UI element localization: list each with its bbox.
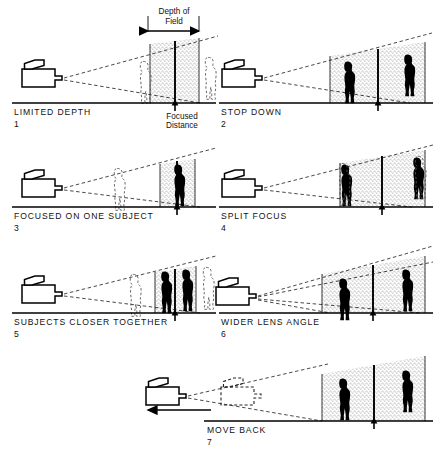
depth-of-field-label-line2: Field (165, 17, 183, 26)
panel-3-caption: FOCUSED ON ONE SUBJECT (14, 211, 154, 221)
panel-2-number: 2 (221, 119, 226, 129)
panel-4-caption: SPLIT FOCUS (221, 211, 287, 221)
depth-of-field-diagram: Depth of Field LIMITED DEPTH 1 Focused D… (0, 0, 435, 459)
panel-5-number: 5 (14, 329, 19, 339)
panel-5-caption: SUBJECTS CLOSER TOGETHER (14, 317, 168, 327)
panel-7-caption: MOVE BACK (207, 425, 266, 435)
focused-distance-label-line1: Focused (166, 112, 198, 121)
panel-4-number: 4 (221, 223, 226, 233)
panel-2-caption: STOP DOWN (221, 107, 282, 117)
panel-6-number: 6 (221, 329, 226, 339)
panel-6-caption: WIDER LENS ANGLE (221, 317, 320, 327)
panel-7-number: 7 (207, 437, 212, 447)
panel-1-caption: LIMITED DEPTH (14, 107, 91, 117)
panel-3-number: 3 (14, 223, 19, 233)
panel-1-number: 1 (14, 119, 19, 129)
depth-of-field-label-line1: Depth of (159, 7, 191, 16)
focused-distance-label-line2: Distance (166, 121, 198, 130)
